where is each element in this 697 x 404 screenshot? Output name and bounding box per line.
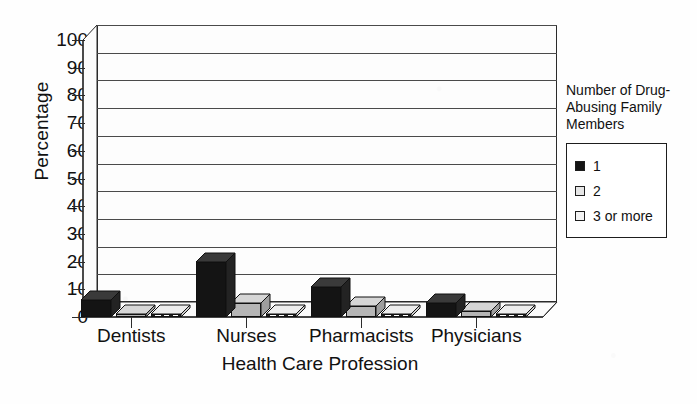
y-axis-tick xyxy=(72,151,85,152)
bar-3d-faces xyxy=(426,294,467,319)
gridline xyxy=(97,53,557,54)
bar-3d-faces xyxy=(231,294,272,319)
y-axis-tick xyxy=(72,289,85,290)
legend-entry[interactable]: 2 xyxy=(575,178,659,203)
bar xyxy=(196,262,226,317)
gridline xyxy=(97,191,557,192)
gridline xyxy=(97,25,557,26)
gridline xyxy=(97,136,557,137)
y-axis-tick xyxy=(72,234,85,235)
bar-3d-faces xyxy=(311,278,352,319)
legend-entry-label: 3 or more xyxy=(593,208,653,224)
bar-3d-faces xyxy=(151,305,192,319)
bar xyxy=(426,303,456,317)
gridline xyxy=(97,274,557,275)
legend-entry-label: 1 xyxy=(593,158,601,174)
legend-box: 123 or more xyxy=(566,143,667,238)
y-axis-tick xyxy=(72,68,85,69)
chart-figure: Percentage 0102030405060708090100 Health… xyxy=(0,0,697,404)
bar xyxy=(311,287,341,317)
gridline xyxy=(97,108,557,109)
legend-title-line: Abusing Family xyxy=(566,99,684,116)
bar-3d-faces xyxy=(266,305,307,319)
y-axis-tick xyxy=(72,95,85,96)
legend-entry-label: 2 xyxy=(593,183,601,199)
bar-3d-faces xyxy=(196,253,237,319)
legend-entry[interactable]: 1 xyxy=(575,153,659,178)
y-axis-tick xyxy=(72,262,85,263)
gridline xyxy=(97,164,557,165)
white-square-icon xyxy=(575,211,585,221)
legend-title-line: Number of Drug- xyxy=(566,82,684,99)
bar xyxy=(81,300,111,317)
light-gray-square-icon xyxy=(575,186,585,196)
y-axis-tick xyxy=(72,123,85,124)
solid-black-square-icon xyxy=(575,161,585,171)
legend-title-line: Members xyxy=(566,116,684,133)
gridline xyxy=(97,247,557,248)
bar-3d-faces xyxy=(496,305,537,319)
x-axis-category-label: Physicians xyxy=(406,325,546,347)
legend: Number of Drug-Abusing FamilyMembers 123… xyxy=(566,82,694,238)
gridline xyxy=(97,80,557,81)
bar-3d-faces xyxy=(81,291,122,319)
y-axis-tick xyxy=(72,40,85,41)
y-axis-tick xyxy=(72,179,85,180)
legend-title: Number of Drug-Abusing FamilyMembers xyxy=(566,82,684,133)
bar-3d-faces xyxy=(346,297,387,319)
bar-3d-faces xyxy=(116,305,157,319)
legend-entry[interactable]: 3 or more xyxy=(575,203,659,228)
gridline xyxy=(97,219,557,220)
bar-3d-faces xyxy=(461,302,502,319)
bar-3d-faces xyxy=(381,305,422,319)
x-axis-title: Health Care Profession xyxy=(0,353,640,375)
y-axis-tick xyxy=(72,206,85,207)
